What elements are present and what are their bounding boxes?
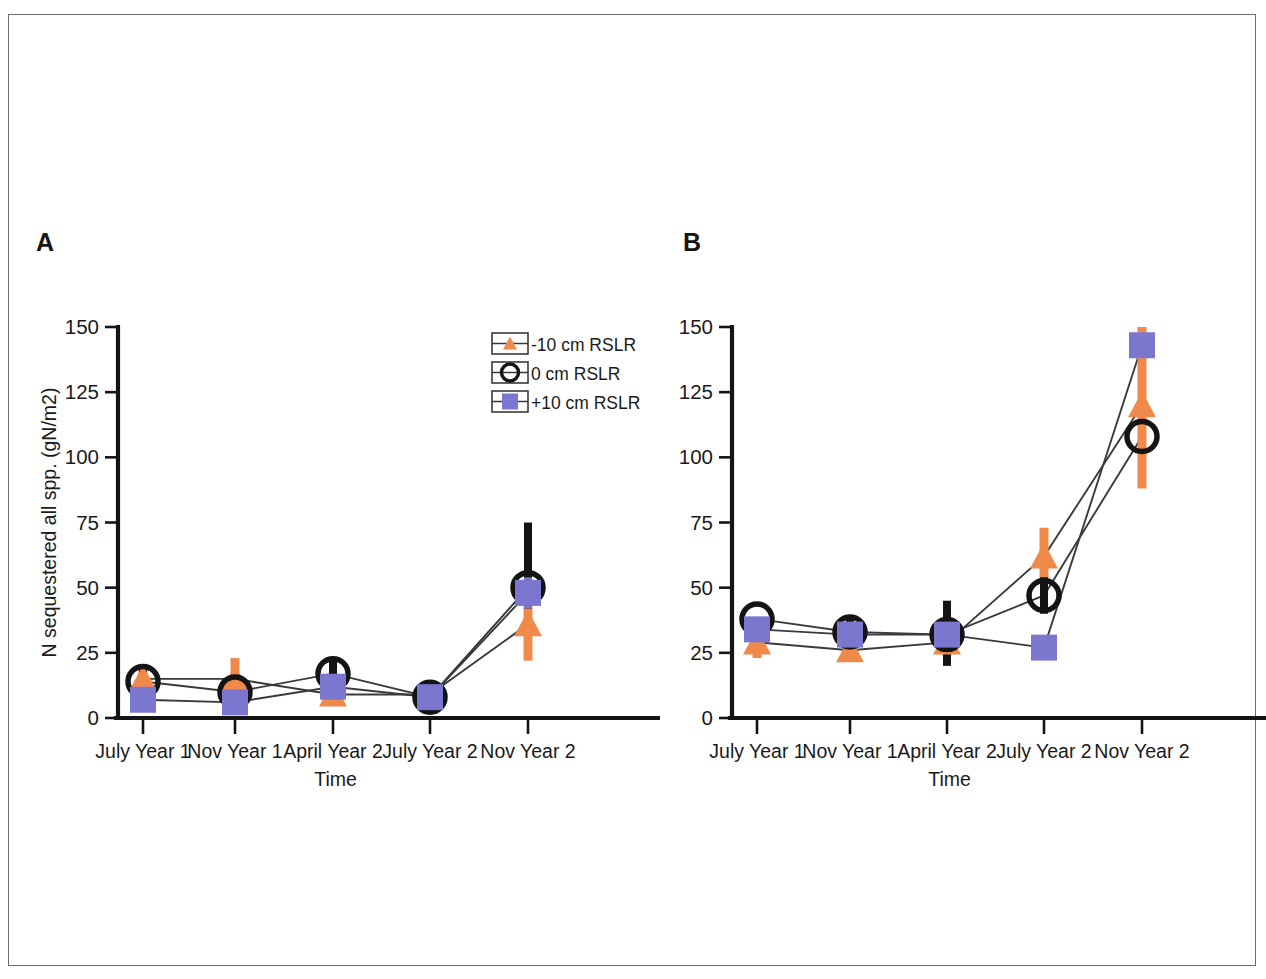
y-tick-label: 125: [65, 380, 99, 403]
legend-label: 0 cm RSLR: [531, 364, 620, 384]
marker-square: [222, 689, 248, 715]
y-tick-label: 100: [679, 445, 713, 468]
y-tick-label: 25: [690, 641, 713, 664]
legend-item: -10 cm RSLR: [492, 333, 636, 355]
x-category-label: July Year 1: [709, 740, 804, 762]
x-category-label: April Year 2: [283, 740, 383, 762]
y-tick-label: 125: [679, 380, 713, 403]
chart-legend: -10 cm RSLR0 cm RSLR+10 cm RSLR: [492, 333, 640, 413]
y-tick-label: 150: [65, 315, 99, 338]
marker-triangle: [1128, 391, 1156, 417]
marker-square: [515, 580, 541, 606]
x-category-label: July Year 2: [382, 740, 477, 762]
x-category-label: Nov Year 2: [1094, 740, 1189, 762]
marker-square: [1031, 635, 1057, 661]
y-tick-label: 25: [76, 641, 99, 664]
chart-panel-a: 0255075100125150July Year 1Nov Year 1Apr…: [0, 0, 660, 800]
legend-item: +10 cm RSLR: [492, 391, 640, 413]
marker-square: [417, 684, 443, 710]
x-axis-title: Time: [314, 768, 357, 790]
chart-panel-b: 0255075100125150July Year 1Nov Year 1Apr…: [646, 0, 1266, 800]
x-category-label: Nov Year 2: [480, 740, 575, 762]
y-tick-label: 75: [690, 511, 713, 534]
y-tick-label: 0: [88, 706, 99, 729]
marker-square: [1129, 332, 1155, 358]
figure-area: A B 0255075100125150July Year 1Nov Year …: [0, 0, 1266, 979]
y-tick-label: 100: [65, 445, 99, 468]
y-tick-label: 75: [76, 511, 99, 534]
legend-marker-square: [502, 394, 518, 410]
marker-square: [320, 674, 346, 700]
y-axis-title: N sequestered all spp. (gN/m2): [38, 388, 60, 658]
legend-label: -10 cm RSLR: [531, 335, 636, 355]
marker-square: [837, 622, 863, 648]
x-axis-title: Time: [928, 768, 971, 790]
legend-label: +10 cm RSLR: [531, 393, 640, 413]
y-tick-label: 150: [679, 315, 713, 338]
marker-triangle: [514, 610, 542, 636]
y-tick-label: 50: [76, 576, 99, 599]
marker-square: [130, 687, 156, 713]
x-category-label: April Year 2: [897, 740, 997, 762]
marker-square: [934, 622, 960, 648]
marker-triangle: [1030, 542, 1058, 568]
x-category-label: Nov Year 1: [802, 740, 897, 762]
marker-square: [744, 616, 770, 642]
y-tick-label: 50: [690, 576, 713, 599]
y-tick-label: 0: [702, 706, 713, 729]
x-category-label: July Year 1: [95, 740, 190, 762]
legend-item: 0 cm RSLR: [492, 362, 620, 384]
x-category-label: July Year 2: [996, 740, 1091, 762]
x-category-label: Nov Year 1: [187, 740, 282, 762]
